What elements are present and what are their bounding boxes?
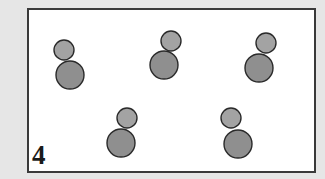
figure-scene <box>0 0 325 179</box>
circle-pair-figure-4 <box>107 108 137 157</box>
large-circle <box>107 129 135 157</box>
large-circle <box>56 61 84 89</box>
circle-pair-figure-2 <box>150 31 181 79</box>
panel-number-label: 4 <box>32 140 46 170</box>
circle-pair-figure-1 <box>54 40 84 89</box>
small-circle <box>256 33 276 53</box>
large-circle <box>150 51 178 79</box>
small-circle <box>161 31 181 51</box>
large-circle <box>245 54 273 82</box>
small-circle <box>54 40 74 60</box>
circle-pair-figure-3 <box>245 33 276 82</box>
small-circle <box>221 108 241 128</box>
circle-pair-figure-5 <box>221 108 252 158</box>
small-circle <box>117 108 137 128</box>
large-circle <box>224 130 252 158</box>
